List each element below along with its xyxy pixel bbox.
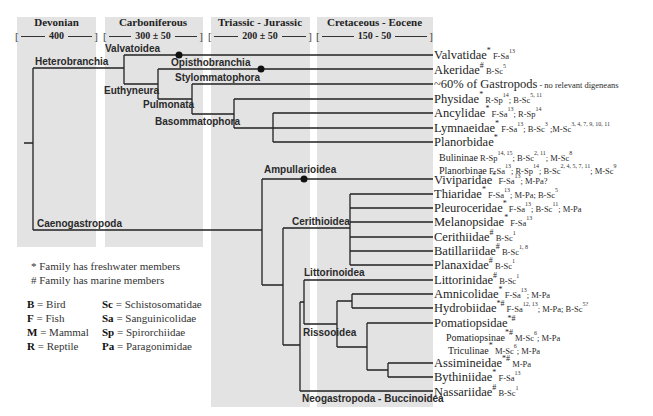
- taxon-melanopsidae: Melanopsidae* F-Sa13: [434, 214, 532, 230]
- taxon-pomatiopsidae: Pomatiopsidae*#: [434, 315, 516, 330]
- clade-euthyneura: Euthyneura: [104, 85, 159, 97]
- legend-parasite-pa: Pa = Paragonimidae: [102, 339, 192, 353]
- clade-neogastropoda-buccinoidea: Neogastropoda - Buccinoidea: [302, 393, 444, 405]
- taxon-ancylidae: Ancylidae* F-Sa13; R-Sp14: [434, 105, 542, 121]
- clade-caenogastropoda: Caenogastropoda: [37, 218, 122, 230]
- taxon-valvatidae: Valvatidae* F-Sa13: [434, 47, 515, 63]
- taxon-nassariidae: Nassariidae# B-Sc1: [434, 384, 518, 400]
- taxon-planorbidae: Planorbidae*: [434, 134, 498, 149]
- legend-marine: # Family has marine members: [31, 273, 164, 287]
- legend-host-mammal: M = Mammal: [27, 325, 89, 339]
- taxon-other-gastropods: ~60% of Gastropods - no relevant digenea…: [434, 76, 618, 92]
- legend-freshwater: * Family has freshwater members: [31, 259, 180, 273]
- legend-parasite-sc: Sc = Schistosomatidae: [102, 297, 202, 311]
- clade-littorinoidea: Littorinoidea: [304, 267, 365, 279]
- clade-pulmonata: Pulmonata: [143, 99, 194, 111]
- clade-opisthobranchia: Opisthobranchia: [171, 57, 250, 69]
- clade-ampullarioidea: Ampullarioidea: [264, 164, 336, 176]
- clade-cerithioidea: Cerithioidea: [292, 216, 350, 228]
- clade-basommatophora: Basommatophora: [155, 116, 240, 128]
- node-dot-ampullarioidea: [301, 176, 308, 183]
- clade-heterobranchia: Heterobranchia: [35, 56, 108, 68]
- taxon-planaxidae: Planaxidae# B-Sc1: [434, 257, 515, 273]
- legend-parasite-sa: Sa = Sanguinicolidae: [102, 311, 196, 325]
- clade-valvatoidea: Valvatoidea: [105, 43, 160, 55]
- clade-stylommatophora: Stylommatophora: [175, 72, 260, 84]
- taxon-bythiniidae: Bythiniidae* F-Sa13: [434, 369, 521, 385]
- clade-rissooidea: Rissooidea: [303, 327, 356, 339]
- legend-parasite-sp: Sp = Spirorchiidae: [102, 325, 185, 339]
- legend-host-fish: F = Fish: [27, 311, 64, 325]
- legend-host-reptile: R = Reptile: [27, 339, 78, 353]
- legend-host-bird: B = Bird: [27, 297, 66, 311]
